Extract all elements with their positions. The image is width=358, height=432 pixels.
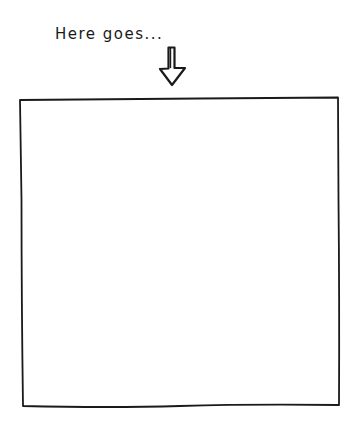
empty-drawing-frame (0, 0, 358, 432)
